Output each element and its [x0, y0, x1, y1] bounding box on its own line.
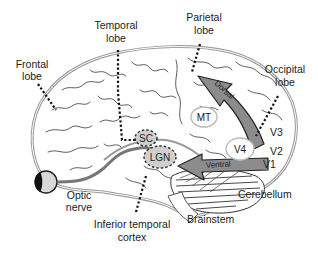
svg-text:lobe: lobe	[106, 32, 126, 44]
mt-label: MT	[197, 112, 211, 123]
svg-text:Occipital: Occipital	[265, 63, 305, 75]
inferior-temporal-cortex-label: Inferior temporal cortex	[94, 218, 170, 243]
svg-text:Optic: Optic	[67, 189, 92, 201]
svg-text:Inferior temporal: Inferior temporal	[94, 218, 170, 230]
frontal-lobe-label: Frontal lobe	[16, 58, 49, 82]
svg-text:lobe: lobe	[194, 24, 214, 36]
v1-label: V1	[263, 158, 276, 170]
svg-text:cortex: cortex	[118, 231, 147, 243]
svg-text:lobe: lobe	[275, 76, 295, 88]
parietal-lobe-label: Parietal lobe	[186, 11, 222, 36]
sc-nucleus: SC	[135, 130, 157, 146]
v4-area: V4	[226, 138, 254, 160]
brain-diagram: Dorsal Ventral MT V4 SC LGN F	[0, 0, 318, 254]
lgn-nucleus: LGN	[144, 146, 176, 168]
svg-text:lobe: lobe	[22, 70, 42, 82]
sc-label: SC	[139, 133, 153, 144]
lgn-label: LGN	[150, 152, 171, 163]
svg-text:Temporal: Temporal	[94, 19, 137, 31]
v3-label: V3	[270, 126, 283, 138]
optic-nerve-label: Optic nerve	[66, 189, 92, 213]
ventral-label: Ventral	[206, 159, 232, 170]
eye	[35, 171, 57, 193]
mt-area: MT	[191, 107, 217, 127]
svg-text:nerve: nerve	[66, 201, 92, 213]
brainstem-label: Brainstem	[187, 213, 235, 225]
v4-label: V4	[234, 144, 247, 155]
v2-label: V2	[270, 145, 283, 157]
temporal-lobe-label: Temporal lobe	[94, 19, 137, 44]
cerebellum-label: Cerebellum	[238, 188, 292, 200]
svg-text:Parietal: Parietal	[186, 11, 222, 23]
svg-text:Frontal: Frontal	[16, 58, 49, 70]
